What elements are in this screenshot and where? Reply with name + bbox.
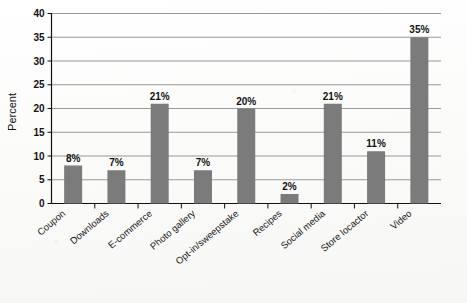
value-label-6: 21% (323, 91, 343, 102)
y-tick-label-5: 5 (39, 174, 45, 185)
value-label-5: 2% (282, 181, 297, 192)
category-labels-group: CouponDownloadsE-commercePhoto galleryOp… (35, 207, 414, 266)
category-label-video: Video (388, 208, 414, 232)
category-label-recipes: Recipes (250, 207, 284, 238)
value-label-1: 7% (109, 157, 124, 168)
value-label-4: 20% (236, 96, 256, 107)
bar-photo-gallery (194, 170, 212, 203)
x-axis-ticks-group (95, 204, 398, 209)
bar-e-commerce (151, 104, 169, 204)
chart-canvas: 0510152025303540 Percent 8%7%21%7%20%2%2… (0, 0, 467, 303)
y-axis-title: Percent (6, 93, 18, 131)
bar-coupon (64, 166, 82, 204)
y-tick-label-35: 35 (33, 32, 45, 43)
value-label-2: 21% (150, 91, 170, 102)
value-label-8: 35% (409, 24, 429, 35)
category-label-coupon: Coupon (35, 208, 68, 238)
bar-opt-in-sweepstake (237, 109, 255, 204)
y-tick-label-0: 0 (39, 198, 45, 209)
value-label-3: 7% (196, 157, 211, 168)
category-label-downloads: Downloads (68, 207, 111, 246)
value-label-7: 11% (366, 138, 386, 149)
bar-recipes (281, 194, 299, 204)
category-label-store-locactor: Store locactor (318, 208, 370, 254)
bar-social-media (324, 104, 342, 204)
bar-chart-figure: 0510152025303540 Percent 8%7%21%7%20%2%2… (0, 0, 467, 303)
category-label-e-commerce: E-commerce (106, 208, 154, 251)
y-tick-label-10: 10 (33, 151, 45, 162)
bar-store-locactor (367, 151, 385, 203)
y-tick-label-15: 15 (33, 127, 45, 138)
y-axis-ticks-group: 0510152025303540 (33, 8, 51, 209)
bar-downloads (107, 170, 125, 203)
y-tick-label-40: 40 (33, 8, 45, 19)
y-tick-label-25: 25 (33, 79, 45, 90)
bar-video (410, 37, 428, 203)
y-tick-label-30: 30 (33, 56, 45, 67)
value-label-0: 8% (66, 153, 81, 164)
y-tick-label-20: 20 (33, 103, 45, 114)
bars-group (64, 37, 428, 203)
